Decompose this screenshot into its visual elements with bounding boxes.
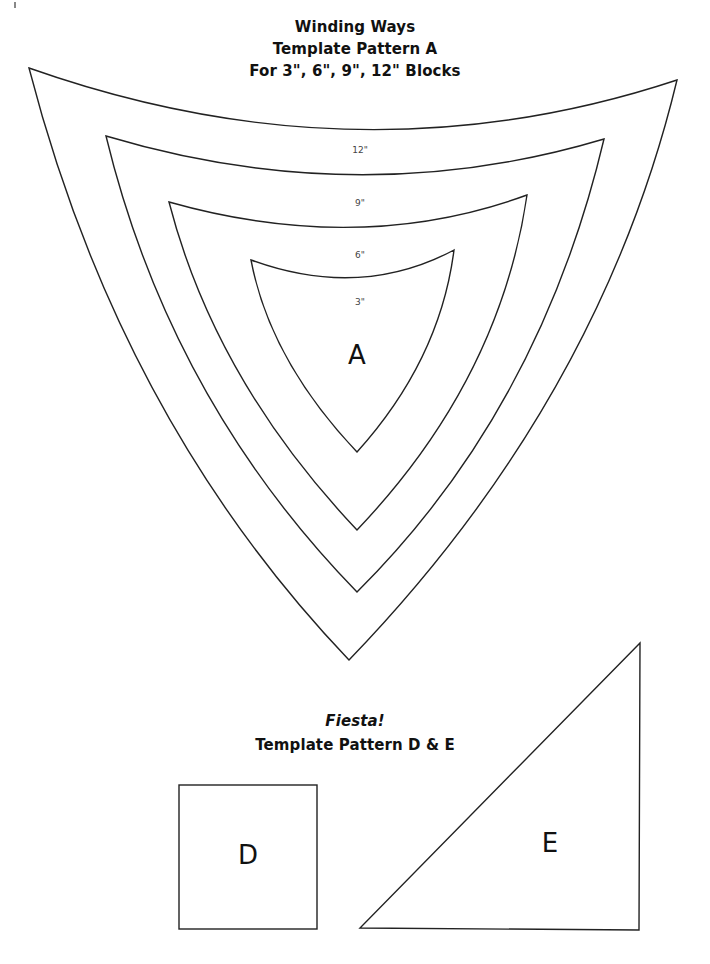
- template-e-triangle: [360, 643, 640, 930]
- piece-letter-a: A: [337, 340, 377, 370]
- size-label-6in: 6": [340, 250, 380, 260]
- piece-letter-d: D: [228, 840, 268, 870]
- fiesta-title: Fiesta!: [0, 712, 710, 730]
- size-label-9in: 9": [340, 198, 380, 208]
- piece-letter-e: E: [530, 828, 570, 858]
- size-label-3in: 3": [340, 297, 380, 307]
- fiesta-subtitle: Template Pattern D & E: [0, 736, 710, 754]
- size-label-12in: 12": [340, 145, 380, 155]
- template-page: Winding Ways Template Pattern A For 3", …: [0, 0, 710, 964]
